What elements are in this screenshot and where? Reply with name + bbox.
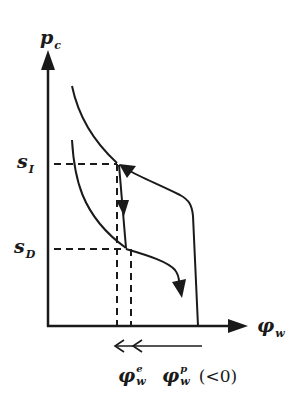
drainage-continuation-curve (126, 249, 179, 282)
imbibition-curve (128, 170, 198, 326)
x-axis (47, 319, 248, 333)
phi-elastic-label: φew (118, 366, 146, 388)
phi-plastic-label: φpw (<0) (162, 366, 237, 388)
s-d-label: sD (14, 237, 35, 256)
x-axis-arrowhead-icon (228, 319, 248, 333)
imbibition-arrow-icon (119, 164, 136, 178)
s-i-label: sI (17, 152, 34, 171)
negative-note: (<0) (199, 366, 237, 386)
left-shift-arrows (115, 340, 202, 352)
drainage-arrow-icon (172, 279, 186, 298)
y-axis-label: pc (40, 28, 61, 47)
hysteresis-diagram (0, 0, 300, 408)
x-axis-label: φw (257, 316, 285, 335)
y-axis-arrowhead-icon (41, 50, 55, 70)
primary-drainage-curve (72, 86, 117, 163)
y-axis (41, 50, 55, 327)
dashed-guides (54, 164, 131, 326)
